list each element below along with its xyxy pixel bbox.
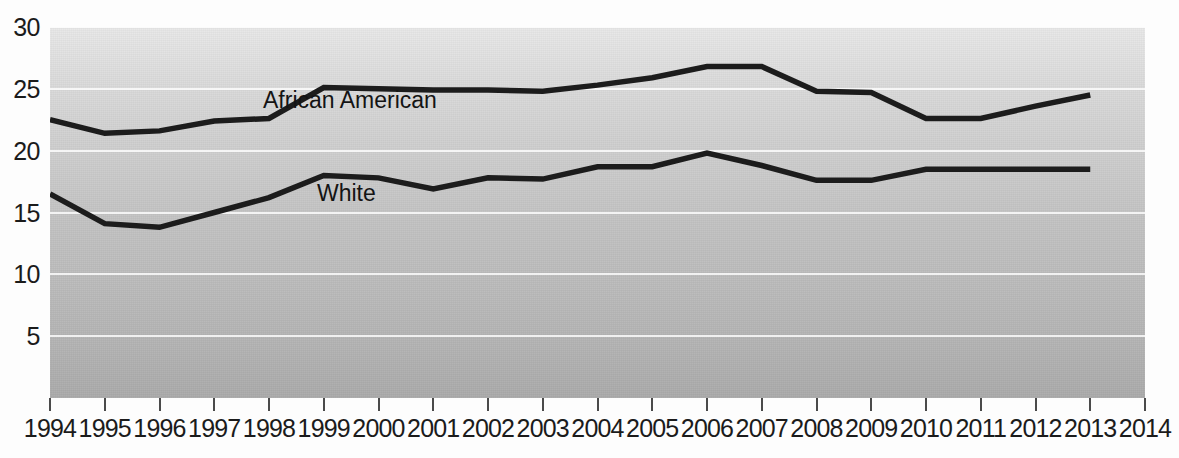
x-tick bbox=[870, 398, 872, 411]
x-tick bbox=[980, 398, 982, 411]
x-tick-label: 2001 bbox=[407, 414, 459, 443]
x-tick-label: 2000 bbox=[352, 414, 404, 443]
x-tick-label: 1996 bbox=[133, 414, 185, 443]
x-tick bbox=[432, 398, 434, 411]
line-chart: 30252015105 African AmericanWhite 199419… bbox=[0, 0, 1179, 458]
y-axis: 30252015105 bbox=[0, 0, 50, 458]
x-tick bbox=[323, 398, 325, 411]
y-tick-label: 30 bbox=[13, 13, 40, 42]
x-tick-label: 2004 bbox=[571, 414, 623, 443]
x-tick-label: 2013 bbox=[1064, 414, 1116, 443]
x-tick-label: 2007 bbox=[736, 414, 788, 443]
x-tick bbox=[49, 398, 51, 411]
x-tick bbox=[159, 398, 161, 411]
x-tick-label: 2005 bbox=[626, 414, 678, 443]
x-tick-label: 2009 bbox=[845, 414, 897, 443]
x-tick bbox=[104, 398, 106, 411]
series-label-white: White bbox=[317, 180, 376, 207]
x-tick bbox=[213, 398, 215, 411]
x-axis: 1994199519961997199819992000200120022003… bbox=[50, 398, 1145, 458]
x-tick bbox=[1035, 398, 1037, 411]
x-tick-label: 2014 bbox=[1119, 414, 1171, 443]
x-tick bbox=[268, 398, 270, 411]
y-tick-label: 20 bbox=[13, 136, 40, 165]
x-tick bbox=[487, 398, 489, 411]
x-tick bbox=[925, 398, 927, 411]
x-tick-label: 1999 bbox=[298, 414, 350, 443]
series-label-african-american: African American bbox=[263, 87, 437, 114]
x-tick bbox=[1144, 398, 1146, 411]
y-tick-label: 10 bbox=[13, 260, 40, 289]
y-tick-label: 25 bbox=[13, 74, 40, 103]
x-tick-label: 2008 bbox=[790, 414, 842, 443]
x-tick bbox=[651, 398, 653, 411]
series-line-white bbox=[50, 153, 1090, 227]
x-tick-label: 2002 bbox=[462, 414, 514, 443]
x-tick-label: 2003 bbox=[517, 414, 569, 443]
x-tick bbox=[1089, 398, 1091, 411]
x-tick bbox=[378, 398, 380, 411]
x-tick-label: 2010 bbox=[900, 414, 952, 443]
x-tick-label: 1997 bbox=[188, 414, 240, 443]
y-tick-label: 5 bbox=[27, 322, 40, 351]
x-tick bbox=[597, 398, 599, 411]
x-tick bbox=[761, 398, 763, 411]
x-tick bbox=[816, 398, 818, 411]
x-tick-label: 1995 bbox=[79, 414, 131, 443]
y-tick-label: 15 bbox=[13, 198, 40, 227]
x-tick-label: 2011 bbox=[955, 414, 1006, 443]
x-tick-label: 2006 bbox=[681, 414, 733, 443]
x-tick bbox=[706, 398, 708, 411]
x-tick bbox=[542, 398, 544, 411]
series-lines bbox=[50, 27, 1145, 398]
x-tick-label: 1998 bbox=[243, 414, 295, 443]
x-tick-label: 1994 bbox=[24, 414, 76, 443]
plot-area: African AmericanWhite bbox=[50, 27, 1145, 398]
x-tick-label: 2012 bbox=[1009, 414, 1061, 443]
series-line-african-american bbox=[50, 67, 1090, 134]
